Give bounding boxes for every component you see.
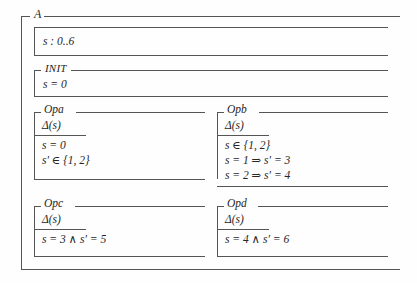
schema-opc-name: Opc — [41, 198, 66, 210]
schema-opa-predicate-2: s′ ∈ {1, 2} — [42, 154, 90, 167]
schema-opc-bottom-rule — [34, 256, 205, 257]
schema-opb-declaration: Δ(s) — [225, 119, 244, 132]
schema-opd-top-notch — [217, 206, 224, 207]
schema-opc-top-rule — [75, 206, 205, 207]
schema-init-bottom-rule — [34, 96, 388, 97]
schema-init-top-notch — [34, 70, 41, 71]
schema-opa-bottom-rule — [34, 179, 205, 180]
schema-opd-predicate-1: s = 4 ∧ s′ = 6 — [225, 233, 289, 246]
schema-opb-left-bar — [217, 112, 218, 179]
schema-opd-top-rule — [258, 206, 388, 207]
declaration-box-top-rule — [34, 27, 388, 28]
schema-opa-top-rule — [76, 112, 205, 113]
schema-opb-top-rule — [259, 112, 388, 113]
schema-opb-bottom-rule — [217, 186, 388, 187]
schema-opa-separator-rule — [34, 135, 86, 136]
schema-opa-left-bar — [34, 112, 35, 179]
declaration-line: s : 0..6 — [43, 35, 74, 48]
outer-schema-a-top-notch — [21, 16, 30, 17]
schema-init-name: INIT — [42, 63, 70, 74]
schema-opb-predicate-1: s ∈ {1, 2} — [225, 139, 270, 152]
schema-opd-bottom-rule — [217, 256, 388, 257]
outer-schema-a-bottom-rule — [21, 269, 400, 270]
schema-opb-predicate-3: s = 2 ⇒ s′ = 4 — [225, 169, 290, 182]
schema-opc-separator-rule — [34, 229, 86, 230]
schema-init-predicate: s = 0 — [43, 78, 67, 91]
schema-opd-declaration: Δ(s) — [225, 213, 244, 226]
schema-opd-left-bar — [217, 206, 218, 256]
schema-opc-top-notch — [34, 206, 41, 207]
z-specification-figure: A s : 0..6 INIT s = 0 Opa Δ(s) s = 0 s′ … — [0, 0, 417, 283]
schema-opd-name: Opd — [224, 198, 250, 210]
schema-opa-name: Opa — [41, 104, 67, 116]
schema-opb-separator-rule — [217, 135, 269, 136]
schema-opc-declaration: Δ(s) — [42, 213, 61, 226]
outer-schema-a-top-rule — [44, 16, 400, 17]
declaration-box-bottom-rule — [34, 55, 388, 56]
schema-opa-declaration: Δ(s) — [42, 119, 61, 132]
schema-opb-name: Opb — [224, 104, 250, 116]
schema-init-top-rule — [71, 70, 388, 71]
declaration-box-left-bar — [34, 27, 35, 55]
schema-init-left-bar — [34, 70, 35, 96]
schema-opa-predicate-1: s = 0 — [42, 139, 66, 152]
schema-opc-left-bar — [34, 206, 35, 256]
schema-opa-top-notch — [34, 112, 41, 113]
schema-opb-predicate-2: s = 1 ⇒ s′ = 3 — [225, 154, 290, 167]
schema-opc-predicate-1: s = 3 ∧ s′ = 5 — [42, 233, 106, 246]
schema-opd-separator-rule — [217, 229, 269, 230]
outer-schema-a-left-bar — [21, 16, 22, 270]
schema-opb-top-notch — [217, 112, 224, 113]
outer-schema-a-name: A — [31, 8, 44, 20]
